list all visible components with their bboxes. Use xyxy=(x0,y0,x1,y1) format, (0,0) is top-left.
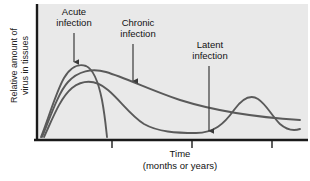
x-axis-label: Time (months or years) xyxy=(95,148,265,171)
curve-latent-infection xyxy=(44,82,300,137)
virus-infection-patterns-figure: Relative amount of virus in tissues Acut… xyxy=(0,0,310,181)
annotation-chronic-line2: infection xyxy=(98,29,178,40)
y-axis-label-line2: virus in tissues xyxy=(19,6,30,126)
annotation-latent-infection: Latent infection xyxy=(170,40,250,61)
curve-chronic-infection xyxy=(42,70,300,137)
annotation-chronic-infection: Chronic infection xyxy=(98,18,178,39)
annotation-latent-line2: infection xyxy=(170,51,250,62)
y-axis-label: Relative amount of virus in tissues xyxy=(9,6,30,126)
x-axis-label-line2: (months or years) xyxy=(95,160,265,172)
x-axis-label-line1: Time xyxy=(95,148,265,160)
annotation-chronic-line1: Chronic xyxy=(98,18,178,29)
x-axis-ticks xyxy=(112,141,272,148)
annotation-acute-line1: Acute xyxy=(33,7,115,18)
annotation-latent-line1: Latent xyxy=(170,40,250,51)
y-axis-label-line1: Relative amount of xyxy=(9,6,20,126)
